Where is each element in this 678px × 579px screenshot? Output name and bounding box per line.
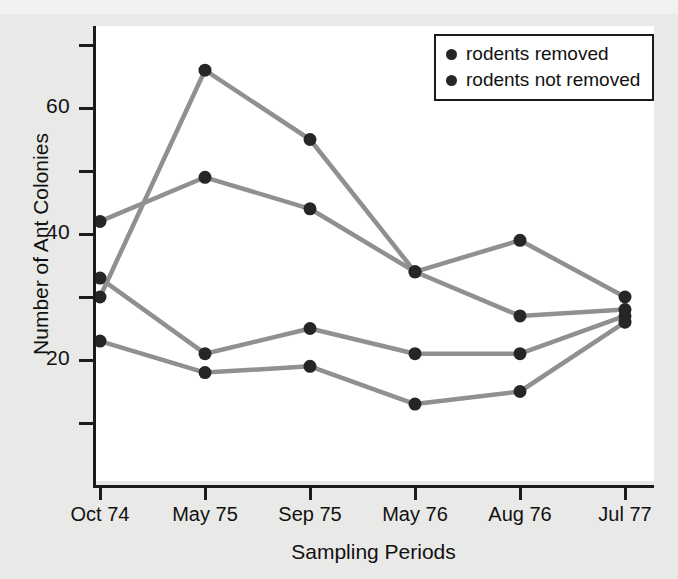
chart-figure: 204060 Oct 74May 75Sep 75May 76Aug 76Jul…: [0, 0, 678, 579]
y-axis-tick: [79, 422, 94, 425]
y-axis-tick: [79, 44, 94, 47]
x-axis-tick: [519, 486, 522, 500]
x-axis-tick-label: Aug 76: [460, 503, 580, 526]
legend-marker-icon: [446, 75, 457, 86]
x-axis-tick-label: May 75: [145, 503, 265, 526]
x-axis-tick: [414, 486, 417, 500]
x-axis-line: [93, 485, 654, 488]
legend-item-label: rodents removed: [466, 43, 609, 65]
y-axis-tick: [79, 233, 94, 236]
x-axis-tick: [99, 486, 102, 500]
x-axis-tick-label: May 76: [355, 503, 475, 526]
x-axis-tick-label: Jul 77: [565, 503, 678, 526]
x-axis-tick: [624, 486, 627, 500]
x-axis-tick-label: Sep 75: [250, 503, 370, 526]
y-axis-label: Number of Ant Colonies: [29, 99, 53, 389]
legend-item: rodents removed: [446, 41, 640, 67]
y-axis-tick: [79, 359, 94, 362]
x-axis-label: Sampling Periods: [93, 540, 654, 564]
y-axis-tick: [79, 296, 94, 299]
legend-item: rodents not removed: [446, 67, 640, 93]
chart-legend: rodents removed rodents not removed: [434, 34, 654, 101]
scan-highlight-band: [0, 0, 678, 14]
legend-marker-icon: [446, 49, 457, 60]
legend-item-label: rodents not removed: [466, 69, 640, 91]
x-axis-tick: [204, 486, 207, 500]
y-axis-tick: [79, 170, 94, 173]
x-axis-tick-label: Oct 74: [40, 503, 160, 526]
x-axis-tick: [309, 486, 312, 500]
y-axis-line: [93, 26, 96, 488]
y-axis-tick: [79, 107, 94, 110]
